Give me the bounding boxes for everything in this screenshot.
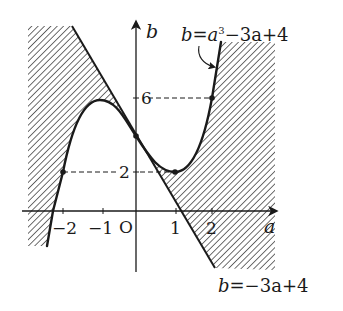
tick-label-a-1: 1	[170, 218, 181, 238]
diagram-canvas: b a O −2 −1 1 2 2 6 b=a3−3a+4 b=−3a+4	[0, 0, 343, 311]
b-axis-label: b	[146, 20, 158, 42]
shaded-region-left	[28, 26, 136, 246]
a-axis-label: a	[264, 215, 275, 237]
tick-label-a-2: 2	[206, 218, 217, 238]
tick-label-a-neg1: −1	[88, 218, 113, 238]
point-0-4	[133, 133, 139, 139]
label-pointer-arrow	[199, 46, 214, 67]
origin-label: O	[119, 217, 133, 237]
tick-label-b-6: 6	[141, 88, 152, 108]
point-1-2	[172, 169, 178, 175]
tick-label-b-2: 2	[119, 162, 130, 182]
tick-label-a-neg2: −2	[52, 218, 77, 238]
point-neg2-2	[60, 169, 66, 175]
cubic-label: b=a3−3a+4	[181, 24, 289, 45]
tangent-line-label: b=−3a+4	[218, 275, 308, 296]
point-2-6	[209, 95, 215, 101]
